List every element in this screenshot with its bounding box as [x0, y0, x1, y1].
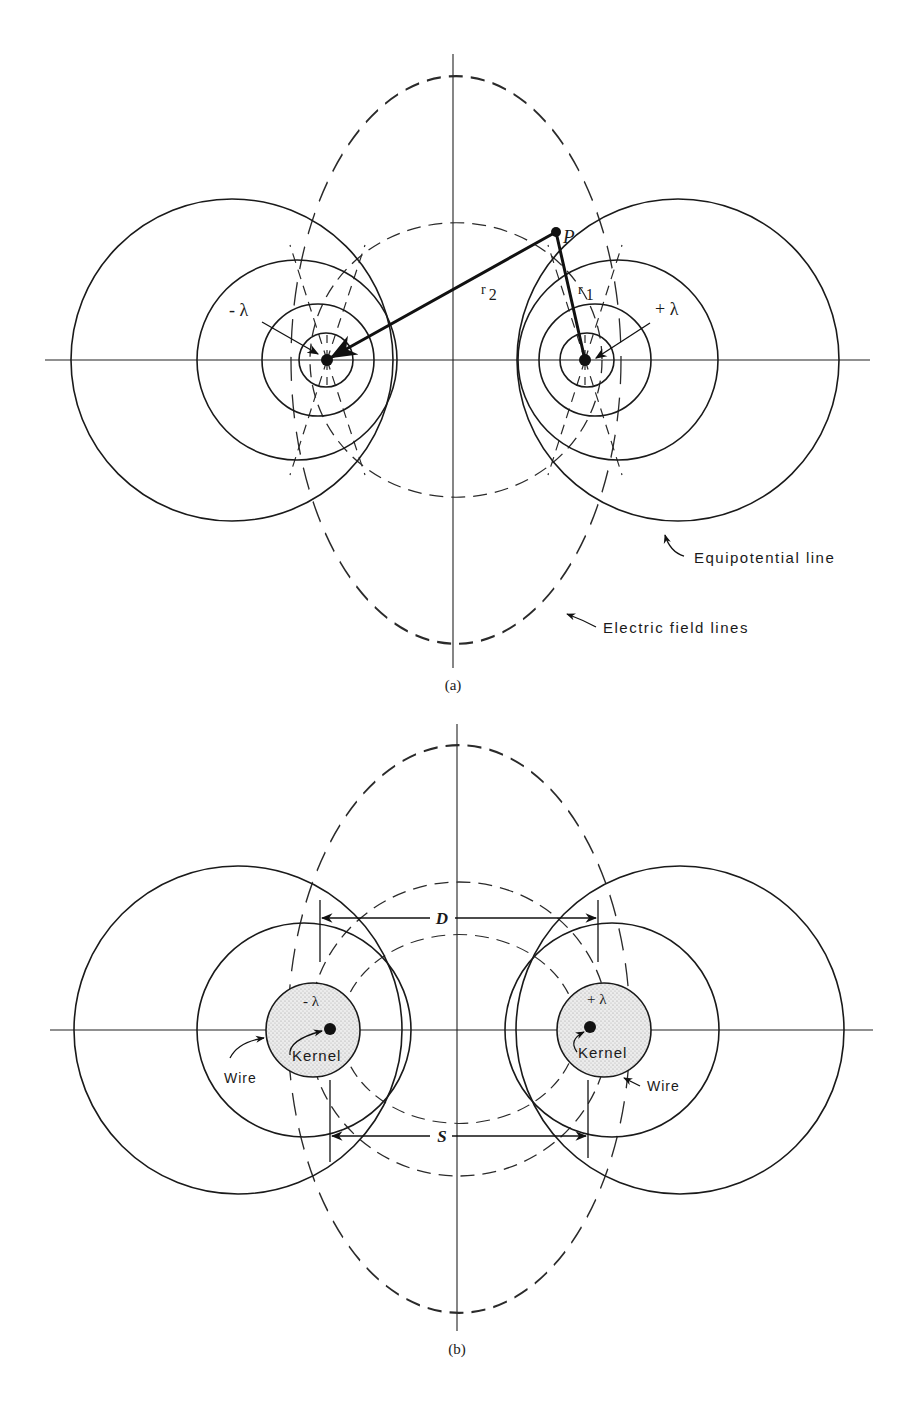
- left-kernel-label: Kernel: [292, 1047, 341, 1064]
- right-kernel-label: Kernel: [578, 1044, 627, 1061]
- equipotential-label: Equipotential line: [694, 549, 835, 566]
- two-line-charge-figure: P r2 r1 - λ + λ Equipotential line Elect…: [0, 0, 908, 1401]
- d-label: D: [435, 909, 448, 928]
- point-p-marker: [551, 227, 561, 237]
- right-wire-label: Wire: [647, 1078, 680, 1094]
- r2-label: r2: [481, 282, 497, 303]
- equipotential-callout-arrow: [665, 535, 684, 556]
- field-line-inner: [341, 935, 577, 1124]
- left-wire-label: Wire: [224, 1070, 257, 1086]
- negative-charge-dot: [321, 354, 333, 366]
- r1-sub: 1: [586, 286, 594, 303]
- positive-charge-dot: [579, 354, 591, 366]
- pos-charge-pointer-arrow: [596, 323, 650, 358]
- left-wire-callout-arrow: [230, 1038, 264, 1058]
- pos-charge-label-b: + λ: [587, 991, 607, 1007]
- figure-a: P r2 r1 - λ + λ Equipotential line Elect…: [45, 54, 870, 694]
- r1-main: r: [578, 282, 583, 297]
- left-kernel-dot: [324, 1023, 336, 1035]
- field-lines-callout-arrow: [567, 614, 596, 627]
- right-kernel-dot: [584, 1021, 596, 1033]
- neg-charge-label-a: - λ: [229, 300, 248, 320]
- r2-segment: [332, 232, 556, 357]
- neg-charge-label-b: - λ: [303, 993, 320, 1009]
- r1-label: r1: [578, 282, 594, 303]
- field-ray: [585, 360, 622, 475]
- field-lines-label: Electric field lines: [603, 619, 749, 636]
- pos-charge-label-a: + λ: [655, 299, 679, 319]
- s-label: S: [437, 1127, 446, 1146]
- r2-main: r: [481, 282, 486, 297]
- r2-sub: 2: [489, 286, 497, 303]
- caption-a: (a): [445, 677, 462, 694]
- caption-b: (b): [448, 1341, 466, 1358]
- point-p-label: P: [562, 226, 575, 247]
- figure-b: D S - λ + λ Kernel Kernel Wire Wire (b): [50, 724, 873, 1358]
